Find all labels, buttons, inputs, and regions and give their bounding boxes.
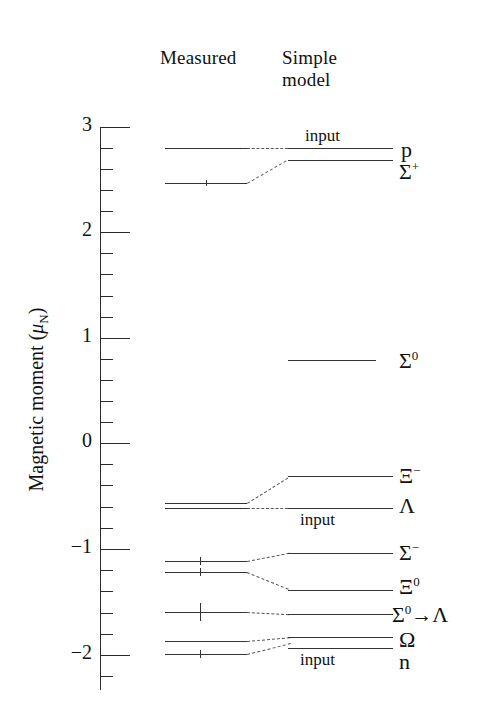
y-tick-minor [100, 591, 113, 592]
species-label-lambda: Λ [399, 495, 415, 517]
species-text-sigma-plus: Σ [399, 159, 412, 184]
level-model-sigma0-to-lambda [288, 614, 393, 615]
species-label-xi-minus: Ξ− [399, 464, 421, 487]
mu-symbol: μ [25, 324, 47, 334]
species-text-xi-zero: Ξ [399, 574, 413, 599]
y-tick-major-1 [100, 338, 130, 339]
y-tick-minor [100, 190, 113, 191]
y-tick-label-2: 2 [52, 218, 92, 241]
level-measured-omega [165, 641, 247, 642]
y-axis-title-text: Magnetic moment ( [25, 334, 47, 492]
y-tick-minor [100, 169, 113, 170]
y-tick-minor [100, 613, 113, 614]
species-text-lambda-target: Λ [432, 602, 448, 627]
errorbar-neutron [200, 650, 201, 658]
species-label-sigma-minus: Σ− [399, 541, 419, 564]
y-tick-minor [100, 296, 113, 297]
y-tick-minor [100, 485, 113, 486]
y-tick-major-3 [100, 127, 130, 128]
level-model-sigma-minus [288, 553, 393, 554]
species-sup-sigma-zero: 0 [412, 348, 419, 363]
species-text-sigma-zero: Σ [399, 348, 412, 373]
species-text-lambda: Λ [399, 493, 415, 518]
y-tick-label-neg2: −2 [52, 641, 92, 664]
y-tick-label-3: 3 [52, 113, 92, 136]
connector-sigma-plus [247, 161, 286, 184]
level-measured-neutron [165, 654, 247, 655]
connector-neutron [247, 643, 291, 655]
y-tick-minor [100, 464, 113, 465]
y-tick-minor [100, 148, 113, 149]
level-measured-proton [165, 148, 247, 149]
y-tick-major-neg2 [100, 655, 130, 656]
level-model-proton [288, 148, 393, 149]
y-tick-minor [100, 253, 113, 254]
species-label-sigma-plus: Σ+ [399, 160, 419, 183]
y-tick-major-0 [100, 443, 130, 444]
species-text-neutron: n [399, 649, 410, 674]
level-model-sigma-plus [288, 160, 393, 161]
arrow-icon: → [411, 603, 432, 627]
level-model-neutron [288, 648, 393, 649]
level-model-omega [288, 637, 393, 638]
y-tick-minor [100, 528, 113, 529]
column-header-measured: Measured [160, 47, 237, 69]
species-label-sigma-zero: Σ0 [399, 349, 418, 372]
connector-xi-zero [247, 572, 289, 590]
level-model-xi-zero [288, 590, 393, 591]
species-text-xi-minus: Ξ [399, 463, 413, 488]
y-tick-minor [100, 676, 113, 677]
input-label-lambda: input [300, 510, 335, 530]
y-tick-minor [100, 634, 113, 635]
connector-sigma-minus [247, 553, 289, 562]
input-label-neutron: input [300, 650, 335, 670]
baryon-magnetic-moment-figure: Measured Simple model Magnetic moment (μ… [0, 0, 490, 723]
y-tick-minor [100, 507, 113, 508]
species-sup-xi-zero: 0 [413, 574, 420, 589]
level-measured-sigma0-to-lambda [165, 612, 247, 613]
column-header-simple-model: Simple model [282, 47, 337, 91]
species-label-sigma0-to-lambda: Σ0→Λ [392, 603, 448, 626]
errorbar-xi-zero [200, 568, 201, 576]
y-tick-minor [100, 380, 113, 381]
y-tick-minor [100, 422, 113, 423]
level-measured-sigma-minus [165, 561, 247, 562]
y-tick-minor [100, 570, 113, 571]
species-text-sigma-minus: Σ [399, 540, 412, 565]
y-tick-label-neg1: −1 [52, 535, 92, 558]
y-tick-minor [100, 401, 113, 402]
y-tick-minor [100, 274, 113, 275]
level-measured-xi-zero [165, 572, 247, 573]
y-axis-title-close: ) [25, 308, 47, 315]
y-tick-minor [100, 317, 113, 318]
species-label-omega: Ω [399, 629, 415, 651]
level-model-lambda [288, 508, 393, 509]
y-tick-major-2 [100, 232, 130, 233]
level-model-sigma-zero [288, 360, 376, 361]
input-label-proton: input [305, 126, 340, 146]
connector-proton [247, 148, 288, 149]
mu-subscript: N [36, 314, 51, 323]
species-sup-xi-minus: − [413, 463, 420, 478]
errorbar-sigma-plus [206, 180, 207, 186]
species-text-sigma0: Σ [392, 602, 405, 627]
level-measured-lambda [165, 508, 247, 509]
connector-sigma0-to-lambda [247, 612, 289, 615]
y-tick-label-0: 0 [52, 429, 92, 452]
species-label-proton: p [401, 139, 412, 161]
errorbar-sigma-minus [200, 557, 201, 565]
species-sup-sigma-plus: + [412, 159, 419, 174]
connector-omega [247, 637, 290, 642]
errorbar-sigma0-to-lambda [200, 603, 201, 621]
y-axis-title: Magnetic moment (μN) [25, 220, 52, 580]
y-tick-minor [100, 359, 113, 360]
y-tick-minor [100, 211, 113, 212]
y-tick-label-1: 1 [52, 324, 92, 347]
species-sup-sigma-minus: − [412, 540, 419, 555]
y-tick-major-neg1 [100, 549, 130, 550]
connector-lambda [247, 508, 288, 509]
level-measured-xi-minus [165, 503, 247, 504]
connector-xi-minus [247, 478, 288, 504]
level-model-xi-minus [288, 476, 393, 477]
species-label-xi-zero: Ξ0 [399, 575, 420, 598]
